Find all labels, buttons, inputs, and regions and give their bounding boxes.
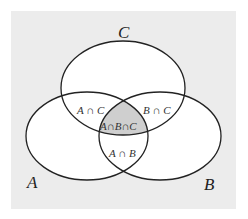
- region-b-and-c-label: B ∩ C: [143, 104, 171, 116]
- set-b-label: B: [204, 175, 215, 194]
- set-c-label: C: [118, 23, 130, 42]
- region-a-and-b-label: A ∩ B: [108, 147, 136, 159]
- region-a-and-c-label: A ∩ C: [76, 104, 105, 116]
- set-a-label: A: [26, 173, 38, 192]
- region-a-and-b-and-c-label: A∩B∩C: [99, 120, 137, 132]
- venn-diagram: C A B A ∩ C B ∩ C A∩B∩C A ∩ B: [0, 0, 248, 219]
